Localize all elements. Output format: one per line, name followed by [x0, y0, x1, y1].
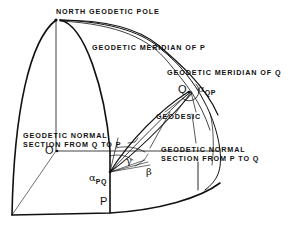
alpha-qp-symbol: α [198, 83, 205, 94]
ellipsoid-outline-left [12, 20, 56, 215]
north-pole-dot [54, 18, 57, 21]
geodesy-diagram [0, 0, 302, 231]
angle-alpha-pq: αPQ [89, 173, 107, 187]
angle-beta: β [146, 167, 152, 177]
angle-gamma: γ [126, 156, 132, 166]
p-point-dot [109, 171, 112, 174]
label-normal-q-to-p-1: GEODETIC NORMAL [23, 132, 108, 140]
alpha-pq-subscript: PQ [96, 178, 107, 185]
label-meridian-q: GEODETIC MERIDIAN OF Q [167, 69, 281, 77]
o-point-dot [56, 150, 59, 153]
alpha-qp-subscript: QP [205, 89, 216, 96]
label-normal-q-to-p-2: SECTION FROM Q TO P [23, 141, 121, 149]
point-q-label: Q [178, 84, 187, 95]
angle-alpha-qp: αQP [198, 84, 216, 98]
label-normal-p-to-q-2: SECTION FROM P TO Q [161, 155, 259, 163]
point-p-label: P [100, 196, 107, 207]
label-normal-p-to-q-1: GEODETIC NORMAL [161, 146, 246, 154]
q-point-dot [188, 91, 190, 93]
alpha-pq-symbol: α [89, 172, 96, 183]
beta-arc [135, 154, 148, 166]
label-north-pole: NORTH GEODETIC POLE [56, 8, 160, 16]
label-meridian-p: GEODETIC MERIDIAN OF P [92, 44, 206, 52]
equator-edge [12, 183, 220, 215]
radius-line-o [12, 151, 56, 215]
point-o-label: O [45, 145, 54, 156]
label-geodesic: GEODESIC [156, 113, 201, 121]
